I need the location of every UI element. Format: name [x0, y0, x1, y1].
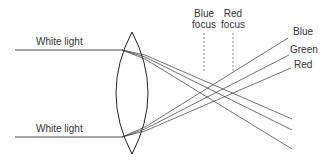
top-ray-red [145, 59, 292, 149]
diagram-graphics [0, 0, 330, 161]
top-ray-green [145, 57, 292, 130]
bottom-white-light-label: White light [36, 123, 83, 134]
red-focus-label-line2: focus [219, 19, 247, 30]
bottom-ray-red [145, 68, 291, 131]
red-focus-label: Red focus [219, 8, 247, 30]
blue-focus-label: Blue focus [190, 8, 218, 30]
red-focus-label-line1: Red [219, 8, 247, 19]
top-white-light-label: White light [36, 36, 83, 47]
blue-focus-label-line1: Blue [190, 8, 218, 19]
ray-label-red: Red [294, 59, 312, 70]
chromatic-aberration-diagram: White light White light Blue focus Red f… [0, 0, 330, 161]
bottom-ray-blue [145, 38, 288, 127]
ray-label-blue: Blue [293, 26, 313, 37]
blue-focus-label-line2: focus [190, 19, 218, 30]
ray-label-green: Green [290, 44, 318, 55]
